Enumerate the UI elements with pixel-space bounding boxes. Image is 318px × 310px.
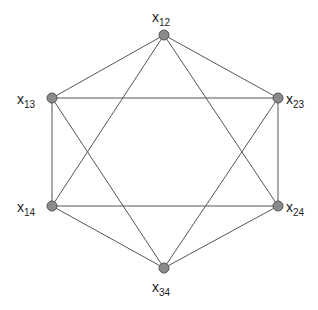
node-x23 [273, 93, 283, 103]
edges [52, 35, 278, 268]
edge-x13-x34 [52, 98, 164, 268]
edge-x12-x23 [164, 35, 278, 98]
node-label-x23: x23 [286, 91, 305, 110]
edge-x12-x24 [164, 35, 278, 206]
node-x12 [159, 30, 169, 40]
node-x24 [273, 201, 283, 211]
edge-x24-x34 [164, 206, 278, 268]
node-label-x34: x34 [152, 279, 171, 298]
node-label-x24: x24 [286, 199, 305, 218]
node-x13 [47, 93, 57, 103]
node-label-x13: x13 [17, 91, 36, 110]
node-x34 [159, 263, 169, 273]
node-x14 [47, 201, 57, 211]
edge-x23-x34 [164, 98, 278, 268]
node-label-x12: x12 [152, 9, 171, 28]
labels: x12x13x23x14x24x34 [17, 9, 305, 298]
edge-x12-x13 [52, 35, 164, 98]
edge-x14-x34 [52, 206, 164, 268]
nodes [47, 30, 283, 273]
edge-x12-x14 [52, 35, 164, 206]
graph-diagram: x12x13x23x14x24x34 [0, 0, 318, 310]
node-label-x14: x14 [17, 199, 36, 218]
